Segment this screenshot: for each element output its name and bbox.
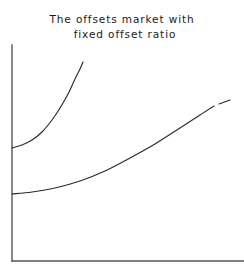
plot-area [0,0,244,275]
curve-upper [12,62,83,148]
curve-lower-segment-a [12,106,214,194]
curve-lower-segment-b [219,100,230,104]
figure-container: The offsets market with fixed offset rat… [0,0,244,275]
